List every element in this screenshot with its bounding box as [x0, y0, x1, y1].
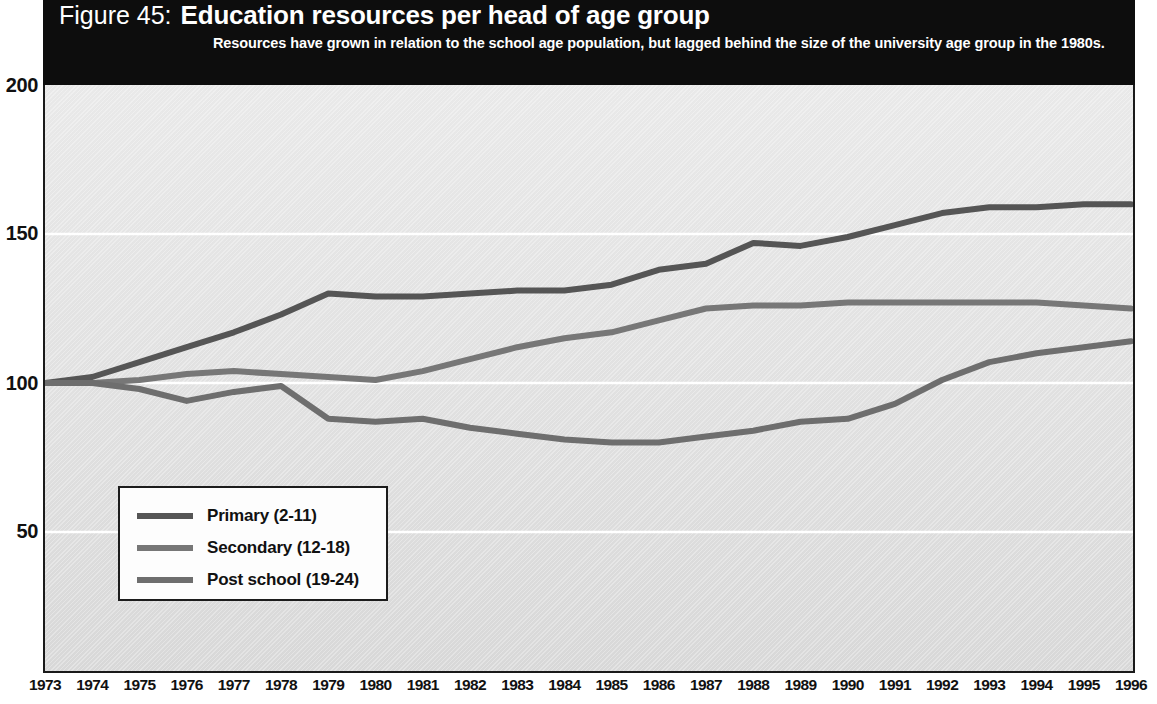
legend-swatch-primary: [137, 513, 193, 519]
series-line-0: [45, 204, 1131, 383]
x-tick-1981: 1981: [407, 676, 439, 694]
legend-swatch-secondary: [137, 545, 193, 551]
page-title: Education resources per head of age grou…: [181, 0, 710, 30]
x-tick-1984: 1984: [548, 676, 580, 694]
y-axis-labels: 200 150 100 50: [0, 0, 38, 704]
x-tick-1994: 1994: [1021, 676, 1053, 694]
x-tick-1978: 1978: [265, 676, 297, 694]
x-tick-1996: 1996: [1115, 676, 1147, 694]
x-tick-1992: 1992: [926, 676, 958, 694]
x-tick-1993: 1993: [973, 676, 1005, 694]
x-tick-1980: 1980: [359, 676, 391, 694]
legend-swatch-post-school: [137, 577, 193, 583]
y-tick-150: 150: [0, 222, 38, 245]
x-tick-1990: 1990: [832, 676, 864, 694]
legend-item-primary: Primary (2-11): [120, 500, 386, 532]
x-tick-1989: 1989: [784, 676, 816, 694]
y-tick-50: 50: [0, 520, 38, 543]
series-line-2: [45, 341, 1131, 442]
x-tick-1991: 1991: [879, 676, 911, 694]
figure-header: Figure 45:Education resources per head o…: [43, 0, 1135, 85]
x-tick-1975: 1975: [123, 676, 155, 694]
legend-label-secondary: Secondary (12-18): [207, 538, 350, 558]
figure-subtitle: Resources have grown in relation to the …: [213, 34, 1113, 53]
x-tick-1976: 1976: [171, 676, 203, 694]
x-tick-1977: 1977: [218, 676, 250, 694]
figure-container: Figure 45:Education resources per head o…: [0, 0, 1157, 704]
x-tick-1974: 1974: [76, 676, 108, 694]
x-tick-1982: 1982: [454, 676, 486, 694]
legend-label-post-school: Post school (19-24): [207, 570, 359, 590]
x-tick-1995: 1995: [1068, 676, 1100, 694]
legend-item-post-school: Post school (19-24): [120, 564, 386, 596]
figure-title-line: Figure 45:Education resources per head o…: [59, 2, 1135, 28]
x-tick-1985: 1985: [596, 676, 628, 694]
x-axis-labels: 1973197419751976197719781979198019811982…: [0, 676, 1157, 704]
y-tick-100: 100: [0, 372, 38, 395]
legend-label-primary: Primary (2-11): [207, 506, 317, 526]
x-tick-1987: 1987: [690, 676, 722, 694]
x-tick-1973: 1973: [29, 676, 61, 694]
x-tick-1979: 1979: [312, 676, 344, 694]
x-tick-1986: 1986: [643, 676, 675, 694]
figure-number: Figure 45:: [59, 1, 172, 29]
chart-legend: Primary (2-11) Secondary (12-18) Post sc…: [118, 486, 388, 601]
legend-item-secondary: Secondary (12-18): [120, 532, 386, 564]
x-tick-1983: 1983: [501, 676, 533, 694]
y-tick-200: 200: [0, 74, 38, 97]
x-tick-1988: 1988: [737, 676, 769, 694]
